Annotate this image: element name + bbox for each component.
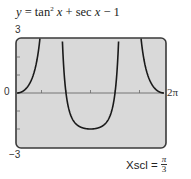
- plot-area: [0, 0, 191, 179]
